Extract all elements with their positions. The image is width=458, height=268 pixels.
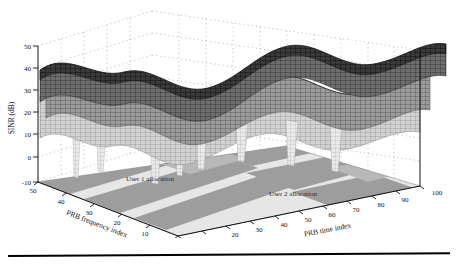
y-tick-label: 50 [30, 187, 38, 195]
x-tick-label: 30 [256, 226, 264, 234]
page-bottom-rule [8, 252, 450, 257]
z-tick-label: 40 [24, 65, 32, 73]
surface-plot: 50 40 30 20 10 0 -10 SINR (dB) 50 40 [0, 0, 458, 238]
z-axis-title: SINR (dB) [7, 101, 16, 134]
figure-container: 50 40 30 20 10 0 -10 SINR (dB) 50 40 [0, 0, 458, 268]
y-tick-label: 40 [58, 198, 66, 206]
z-tick-label: 30 [24, 87, 32, 95]
x-tick-label: 40 [281, 221, 289, 229]
z-tick-label: 10 [24, 131, 32, 139]
x-tick-label: 50 [305, 216, 313, 224]
x-tick-label: 20 [232, 231, 240, 238]
x-tick-label: 90 [402, 196, 410, 204]
annotation-user-2-allocation: User 2 allocation [269, 190, 317, 198]
z-tick-label: 50 [24, 43, 32, 51]
x-tick-label: 80 [378, 201, 386, 209]
x-tick-label: 100 [432, 189, 443, 197]
y-tick-label: 10 [142, 230, 150, 238]
z-tick-label: -10 [22, 179, 32, 187]
x-tick-label: 60 [329, 211, 337, 219]
plot-svg: 50 40 30 20 10 0 -10 SINR (dB) 50 40 [0, 0, 458, 238]
z-tick-label: 20 [24, 109, 32, 117]
x-tick-label: 10 [208, 236, 216, 238]
z-tick-label: 0 [28, 154, 32, 162]
x-tick-label: 70 [353, 206, 361, 214]
annotation-user-1-allocation: User 1 allocation [126, 175, 174, 183]
